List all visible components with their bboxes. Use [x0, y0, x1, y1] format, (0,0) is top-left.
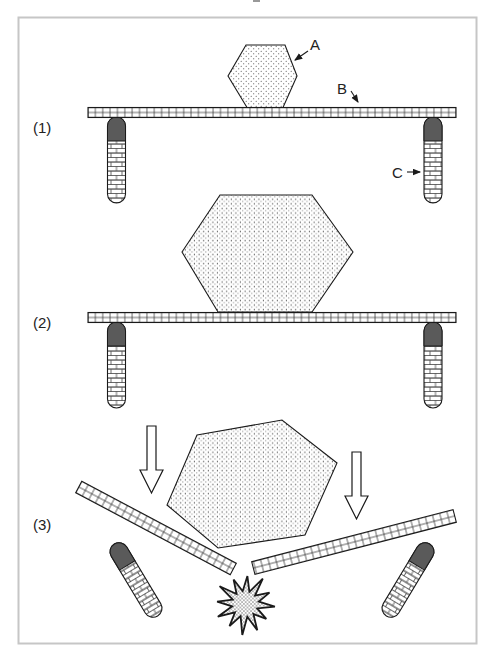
right-column-cap: [424, 117, 442, 141]
slab-beam: [88, 313, 456, 323]
panel-3-label: (3): [33, 516, 51, 533]
left-column-cap: [108, 322, 126, 346]
cropped-top-artifact: [253, 0, 260, 2]
right-column-cap: [424, 322, 442, 346]
left-column-cap: [108, 117, 126, 141]
panel-1-label: (1): [33, 119, 51, 136]
diagram-canvas: (1) A B C (2): [0, 0, 494, 670]
label-a: A: [310, 36, 320, 53]
panel-2-label: (2): [33, 314, 51, 331]
weathering-diagram-figure: (1) A B C (2): [0, 0, 494, 670]
slab-beam: [88, 108, 456, 118]
label-c: C: [392, 164, 403, 181]
label-b: B: [337, 80, 347, 97]
